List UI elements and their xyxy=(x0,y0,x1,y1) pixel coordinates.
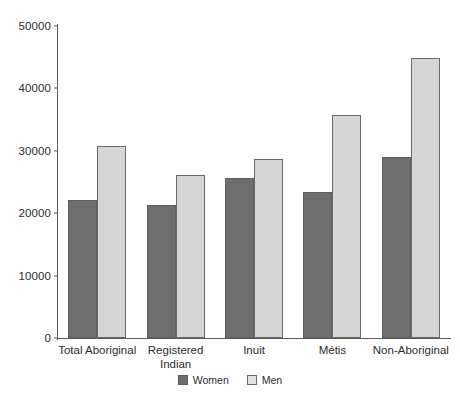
x-axis-line xyxy=(57,338,451,339)
legend-item-women[interactable]: Women xyxy=(178,374,229,386)
plot-area: 01000020000300004000050000 xyxy=(58,26,450,338)
y-axis-tick-label: 20000 xyxy=(19,207,58,219)
legend-label: Men xyxy=(262,374,282,386)
bar-group xyxy=(293,26,371,338)
y-axis-tick-label: 10000 xyxy=(19,270,58,282)
x-axis-labels: Total AboriginalRegisteredIndianInuitMét… xyxy=(58,343,450,371)
bar-group xyxy=(372,26,450,338)
x-axis-category-line: Métis xyxy=(293,343,371,357)
bar-group xyxy=(136,26,214,338)
x-axis-category-label: Métis xyxy=(293,343,371,371)
bar-pair xyxy=(68,26,126,338)
bar-men[interactable] xyxy=(332,115,361,338)
legend-swatch-women xyxy=(178,375,188,385)
bar-women[interactable] xyxy=(147,205,176,338)
x-axis-category-line: Non-Aboriginal xyxy=(372,343,450,357)
x-axis-category-line: Total Aboriginal xyxy=(58,343,136,357)
x-axis-category-label: Non-Aboriginal xyxy=(372,343,450,371)
bar-pair xyxy=(303,26,361,338)
bar-pair xyxy=(225,26,283,338)
y-axis-tick-label: 30000 xyxy=(19,145,58,157)
x-axis-category-line: Inuit xyxy=(215,343,293,357)
chart-legend: WomenMen xyxy=(0,374,460,386)
legend-item-men[interactable]: Men xyxy=(247,374,282,386)
bar-women[interactable] xyxy=(68,200,97,338)
x-axis-category-label: RegisteredIndian xyxy=(136,343,214,371)
x-axis-category-label: Total Aboriginal xyxy=(58,343,136,371)
y-axis-tick-label: 50000 xyxy=(19,20,58,32)
bar-groups xyxy=(58,26,450,338)
bar-men[interactable] xyxy=(176,175,205,338)
bar-group xyxy=(58,26,136,338)
bar-men[interactable] xyxy=(254,159,283,338)
y-axis-tick-label: 40000 xyxy=(19,82,58,94)
legend-swatch-men xyxy=(247,375,257,385)
bar-women[interactable] xyxy=(382,157,411,338)
legend-label: Women xyxy=(193,374,229,386)
x-axis-category-label: Inuit xyxy=(215,343,293,371)
bar-chart: 01000020000300004000050000 Total Aborigi… xyxy=(0,0,460,400)
bar-pair xyxy=(382,26,440,338)
bar-men[interactable] xyxy=(411,58,440,338)
bar-women[interactable] xyxy=(303,192,332,338)
bar-group xyxy=(215,26,293,338)
bar-pair xyxy=(147,26,205,338)
x-axis-category-line: Indian xyxy=(136,357,214,371)
x-axis-category-line: Registered xyxy=(136,343,214,357)
bar-men[interactable] xyxy=(97,146,126,338)
bar-women[interactable] xyxy=(225,178,254,338)
